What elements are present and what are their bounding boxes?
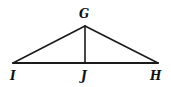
segment-right-side-GH (85, 26, 158, 63)
geometry-figure: G I J H (0, 0, 171, 87)
vertex-label-J: J (81, 70, 87, 82)
vertex-label-H: H (150, 70, 161, 82)
vertex-label-G: G (79, 8, 89, 20)
segment-left-side-GI (13, 26, 85, 63)
vertex-label-I: I (10, 70, 16, 82)
